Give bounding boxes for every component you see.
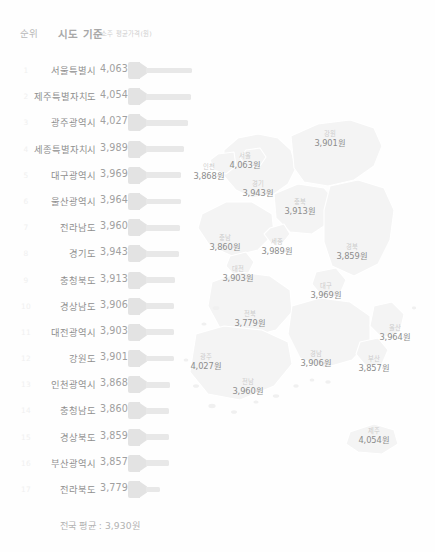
bottle-neck <box>146 460 169 466</box>
ranking-row[interactable]: 3광주광역시4,027 <box>0 110 200 136</box>
rank-number: 10 <box>20 302 32 311</box>
map-label-gangwon[interactable]: 강원3,901원 <box>314 130 345 148</box>
price-value: 3,903 <box>100 325 128 336</box>
ranking-panel: 순위 시도 기준 소주 평균가격(원) 1서울특별시4,0632제주특별자치도4… <box>0 0 200 552</box>
ranking-row[interactable]: 7전라남도3,960 <box>0 215 200 241</box>
map-region-name: 경북 <box>336 243 367 251</box>
map-region-value: 3,901원 <box>314 138 345 148</box>
map-label-ulsan[interactable]: 울산3,964원 <box>379 324 410 342</box>
rank-number: 2 <box>20 92 32 101</box>
ranking-row[interactable]: 4세종특별자치시3,989 <box>0 137 200 163</box>
bottle-body <box>128 245 140 262</box>
map-region-name: 경기 <box>242 180 273 188</box>
rank-number: 15 <box>20 433 32 442</box>
region-name: 충청남도 <box>34 403 96 417</box>
bottle-body <box>128 88 140 105</box>
map-region-value: 3,969원 <box>310 290 341 300</box>
map-label-jeonbuk[interactable]: 전북3,779원 <box>234 310 265 328</box>
bottle-neck <box>146 408 169 414</box>
bottle-neck <box>146 303 174 309</box>
bottle-neck <box>146 68 192 74</box>
ranking-row[interactable]: 15경상북도3,859 <box>0 425 200 451</box>
korea-map: 강원3,901원서울4,063원인천3,868원경기3,943원충북3,913원… <box>178 110 435 510</box>
map-label-gyeongbuk[interactable]: 경북3,859원 <box>336 243 367 261</box>
map-label-incheon[interactable]: 인천3,868원 <box>193 163 224 181</box>
map-label-seoul[interactable]: 서울4,063원 <box>229 152 260 170</box>
map-region-name: 서울 <box>229 152 260 160</box>
map-label-jeonnam[interactable]: 전남3,960원 <box>232 378 263 396</box>
rank-number: 3 <box>20 118 32 127</box>
map-label-busan[interactable]: 부산3,857원 <box>358 355 389 373</box>
map-region-value: 3,857원 <box>358 363 389 373</box>
map-label-chungbuk[interactable]: 충북3,913원 <box>284 198 315 216</box>
bottle-neck <box>146 199 181 205</box>
price-value: 4,054 <box>100 89 128 100</box>
bottle-neck <box>146 434 169 440</box>
map-region-name: 전남 <box>232 378 263 386</box>
ranking-row[interactable]: 2제주특별자치도4,054 <box>0 84 200 110</box>
ranking-row[interactable]: 12강원도3,901 <box>0 346 200 372</box>
national-average-label: 전국 평균 : 3,930원 <box>0 518 200 532</box>
ranking-row[interactable]: 6울산광역시3,964 <box>0 189 200 215</box>
map-region-value: 3,903원 <box>222 273 253 283</box>
map-region-name: 충북 <box>284 198 315 206</box>
ranking-row[interactable]: 5대구광역시3,969 <box>0 163 200 189</box>
region-name: 인천광역시 <box>34 377 96 391</box>
column-header-region: 시도 기준 <box>58 26 104 41</box>
map-region-value: 4,054원 <box>358 435 389 445</box>
map-region-value: 3,868원 <box>193 171 224 181</box>
bottle-neck <box>146 172 181 178</box>
map-region-value: 3,860원 <box>209 242 240 252</box>
ranking-row[interactable]: 8경기도3,943 <box>0 241 200 267</box>
rank-number: 16 <box>20 459 32 468</box>
rank-number: 9 <box>20 276 32 285</box>
ranking-row[interactable]: 1서울특별시4,063 <box>0 58 200 84</box>
bottle-neck <box>146 251 179 257</box>
map-region-name: 충남 <box>209 234 240 242</box>
map-region-name: 강원 <box>314 130 345 138</box>
region-name: 부산광역시 <box>34 456 96 470</box>
map-label-sejong[interactable]: 세종3,989원 <box>261 238 292 256</box>
bottle-body <box>128 324 140 341</box>
ranking-row[interactable]: 11대전광역시3,903 <box>0 320 200 346</box>
price-value: 3,859 <box>100 430 128 441</box>
ranking-row[interactable]: 13인천광역시3,868 <box>0 372 200 398</box>
region-name: 광주광역시 <box>34 115 96 129</box>
price-value: 4,027 <box>100 115 128 126</box>
map-region-value: 3,964원 <box>379 332 410 342</box>
rank-number: 1 <box>20 66 32 75</box>
map-region-name: 세종 <box>261 238 292 246</box>
ranking-row[interactable]: 10경상남도3,906 <box>0 294 200 320</box>
bottle-body <box>128 141 140 158</box>
map-label-daegu[interactable]: 대구3,969원 <box>310 282 341 300</box>
price-value: 3,913 <box>100 273 128 284</box>
map-region-value: 3,859원 <box>336 251 367 261</box>
ranking-row[interactable]: 9충청북도3,913 <box>0 268 200 294</box>
region-name: 충청북도 <box>34 273 96 287</box>
ranking-row[interactable]: 16부산광역시3,857 <box>0 451 200 477</box>
rank-number: 11 <box>20 328 32 337</box>
ranking-row[interactable]: 14충청남도3,860 <box>0 398 200 424</box>
bottle-body <box>128 193 140 210</box>
map-label-jeju[interactable]: 제주4,054원 <box>358 427 389 445</box>
map-label-gwangju[interactable]: 광주4,027원 <box>190 353 221 371</box>
map-label-daejeon[interactable]: 대전3,903원 <box>222 265 253 283</box>
map-label-gyeongnam[interactable]: 경남3,906원 <box>300 350 331 368</box>
price-value: 3,964 <box>100 194 128 205</box>
price-value: 3,857 <box>100 456 128 467</box>
region-name: 경상남도 <box>34 299 96 313</box>
ranking-row[interactable]: 17전라북도3,779 <box>0 477 200 503</box>
region-name: 경상북도 <box>34 430 96 444</box>
price-value: 3,960 <box>100 220 128 231</box>
price-value: 3,906 <box>100 299 128 310</box>
rank-number: 6 <box>20 197 32 206</box>
map-label-chungnam[interactable]: 충남3,860원 <box>209 234 240 252</box>
region-name: 서울특별시 <box>34 63 96 77</box>
map-region-name: 제주 <box>358 427 389 435</box>
map-region-value: 3,989원 <box>261 246 292 256</box>
region-name: 세종특별자치시 <box>34 142 96 156</box>
ranking-header: 순위 시도 기준 소주 평균가격(원) <box>0 26 200 42</box>
map-label-gyeonggi[interactable]: 경기3,943원 <box>242 180 273 198</box>
region-name: 대전광역시 <box>34 325 96 339</box>
map-region-value: 3,906원 <box>300 358 331 368</box>
